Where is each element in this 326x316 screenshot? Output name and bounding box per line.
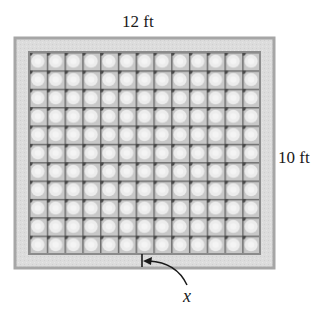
tiled-interior: [29, 52, 260, 254]
width-label: 12 ft: [122, 13, 154, 30]
border-variable-label: x: [183, 287, 191, 305]
height-label: 10 ft: [278, 149, 310, 166]
